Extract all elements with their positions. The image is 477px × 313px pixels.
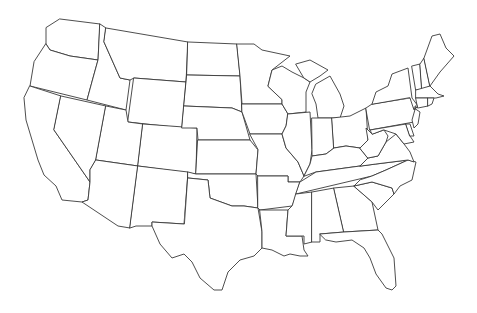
state-new-mexico xyxy=(130,166,188,228)
state-florida xyxy=(320,230,396,290)
state-colorado xyxy=(138,124,197,174)
state-shapes-group xyxy=(24,19,454,290)
state-maine xyxy=(424,34,454,86)
state-rhode-island xyxy=(428,98,434,106)
us-outline-map xyxy=(0,0,477,313)
state-iowa xyxy=(242,104,288,134)
state-kansas xyxy=(196,140,258,174)
state-north-dakota xyxy=(187,42,240,76)
state-connecticut xyxy=(416,98,428,108)
state-arizona xyxy=(82,160,138,228)
state-wyoming xyxy=(128,78,186,128)
